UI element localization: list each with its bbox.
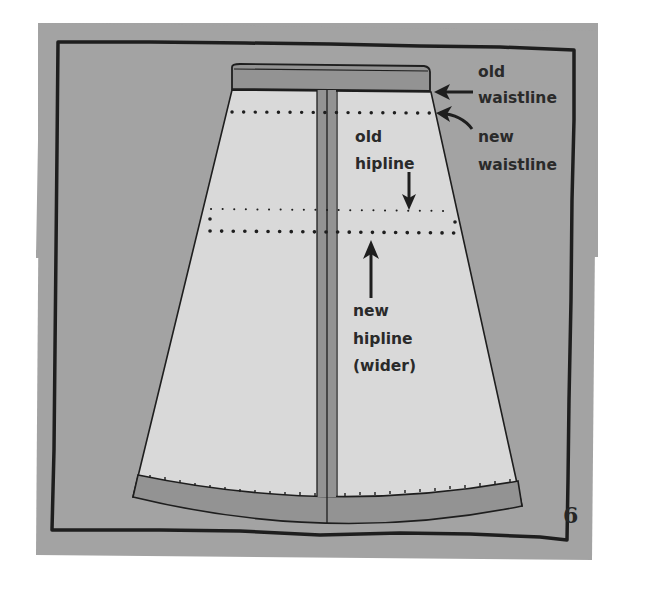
label-new-hipline-line2: hipline xyxy=(353,330,413,348)
diagram-stage: old waistline new waistline old hipline … xyxy=(0,0,646,589)
label-old-hipline-line1: old xyxy=(355,128,382,146)
label-old-waistline-line2: waistline xyxy=(478,89,557,107)
old-hipline-end-dot-left xyxy=(208,217,212,221)
label-old-waistline-line1: old xyxy=(478,63,505,81)
label-old-hipline-line2: hipline xyxy=(355,155,415,173)
label-new-waistline-line2: waistline xyxy=(478,156,557,174)
label-new-waistline-line1: new xyxy=(478,128,514,146)
old-hipline-end-dot-right xyxy=(453,220,457,224)
waistband xyxy=(232,64,430,91)
label-new-hipline-line1: new xyxy=(353,302,389,320)
label-new-hipline-line3: (wider) xyxy=(353,357,416,375)
figure-number: 6 xyxy=(563,502,578,528)
